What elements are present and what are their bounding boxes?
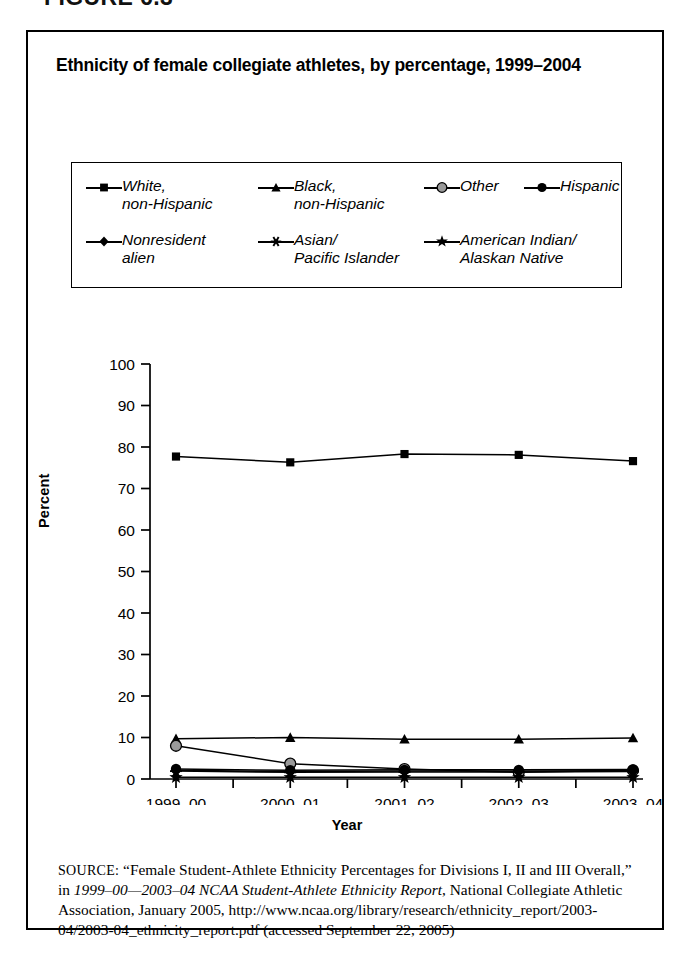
legend-item-hispanic: Hispanic [524,177,619,196]
chart-title: Ethnicity of female collegiate athletes,… [56,54,616,77]
legend-item-white-non-hispanic: White, non-Hispanic [86,177,212,214]
y-tick-label: 0 [126,771,135,788]
legend-marker-circle-black-icon [524,179,560,196]
y-axis-label: Percent [36,473,52,528]
legend-label-other: Other [460,177,499,195]
legend-label-nonresident-alien: Nonresident alien [122,231,206,268]
legend-item-nonresident-alien: Nonresident alien [86,231,206,268]
data-point [400,450,408,458]
source-note: SOURCE: “Female Student-Athlete Ethnicit… [58,860,646,940]
series-black-non-hispanic [171,732,638,743]
legend-item-black-non-hispanic: Black, non-Hispanic [258,177,384,214]
legend-label-asian-pacific-islander: Asian/ Pacific Islander [294,231,399,268]
legend-marker-diamond-icon [86,233,122,250]
chart-legend: White, non-HispanicBlack, non-HispanicOt… [71,162,622,288]
x-tick-label: 2003–04 [603,795,664,805]
legend-marker-circle-gray-icon [424,179,460,196]
y-tick-label: 90 [118,397,136,414]
figure-frame: Ethnicity of female collegiate athletes,… [26,30,664,930]
x-axis-label: Year [28,817,666,833]
data-point [286,458,294,466]
x-tick-label: 2000–01 [260,795,320,805]
y-tick-label: 40 [118,605,136,622]
legend-label-white-non-hispanic: White, non-Hispanic [122,177,212,214]
legend-label-american-indian-alaskan-native: American Indian/ Alaskan Native [460,231,576,268]
y-tick-label: 60 [118,522,136,539]
data-point [629,457,637,465]
y-tick-label: 30 [118,646,136,663]
y-tick-label: 100 [109,356,135,373]
y-tick-label: 20 [118,688,136,705]
legend-item-other: Other [424,177,499,196]
source-italic-1: 1999–00—2003–04 NCAA Student-Athlete Eth… [74,881,442,898]
x-tick-label: 1999–00 [146,795,207,805]
legend-item-american-indian-alaskan-native: American Indian/ Alaskan Native [424,231,576,268]
legend-label-black-non-hispanic: Black, non-Hispanic [294,177,384,214]
plot-area: Percent 01020304050607080901001999–00200… [28,300,666,860]
data-point [172,452,180,460]
line-chart-svg: 01020304050607080901001999–002000–012001… [28,300,666,805]
x-tick-label: 2001–02 [374,795,434,805]
data-point [171,740,182,751]
source-label: SOURCE: [58,863,119,878]
y-tick-label: 80 [118,439,136,456]
legend-label-hispanic: Hispanic [560,177,619,195]
y-tick-label: 50 [118,563,136,580]
series-white-non-hispanic [172,450,637,466]
figure-caption: FIGURE 6.3 [44,0,173,11]
y-tick-label: 10 [118,729,136,746]
data-point [515,451,523,459]
legend-marker-square-icon [86,179,122,196]
x-tick-label: 2002–03 [489,795,549,805]
legend-item-asian-pacific-islander: Asian/ Pacific Islander [258,231,399,268]
legend-marker-star-icon [424,233,460,250]
legend-marker-asterisk-icon [258,233,294,250]
y-tick-label: 70 [118,480,136,497]
legend-marker-triangle-icon [258,179,294,196]
